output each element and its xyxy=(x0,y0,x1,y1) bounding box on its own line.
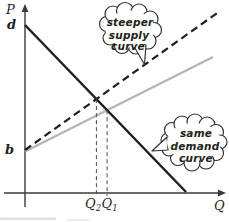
same-demand-callout-line1: same xyxy=(180,127,212,139)
x-axis-arrow-icon xyxy=(218,190,226,197)
q2-label-base: Q xyxy=(85,196,96,211)
scan-smudge xyxy=(0,218,56,220)
same-demand-callout-line2: demand xyxy=(171,140,220,152)
y-axis-label: P xyxy=(5,2,15,17)
supply-intercept-label: b xyxy=(5,142,14,157)
steeper-callout-line2: supply xyxy=(109,29,150,41)
same-demand-callout-pointer xyxy=(152,137,168,151)
same-demand-callout: same demand curve xyxy=(152,114,227,171)
scan-smudge xyxy=(66,219,90,221)
same-demand-callout-line3: curve xyxy=(179,152,213,164)
q1-label: Q1 xyxy=(102,196,118,213)
steeper-supply-callout: steeper supply curve xyxy=(100,3,162,65)
y-axis-arrow-icon xyxy=(22,4,29,12)
q2-label: Q2 xyxy=(85,196,101,213)
figure-canvas: steeper supply curve same demand curve P… xyxy=(0,0,229,222)
steeper-callout-line1: steeper xyxy=(107,16,154,28)
supply-demand-figure: steeper supply curve same demand curve P… xyxy=(0,0,229,222)
q2-label-sub: 2 xyxy=(95,203,101,213)
steeper-callout-line3: curve xyxy=(111,40,145,52)
demand-curve xyxy=(25,25,186,192)
x-axis-label: Q xyxy=(214,198,225,213)
q1-label-sub: 1 xyxy=(112,203,117,213)
q1-label-base: Q xyxy=(102,196,113,211)
demand-intercept-label: d xyxy=(7,17,16,32)
